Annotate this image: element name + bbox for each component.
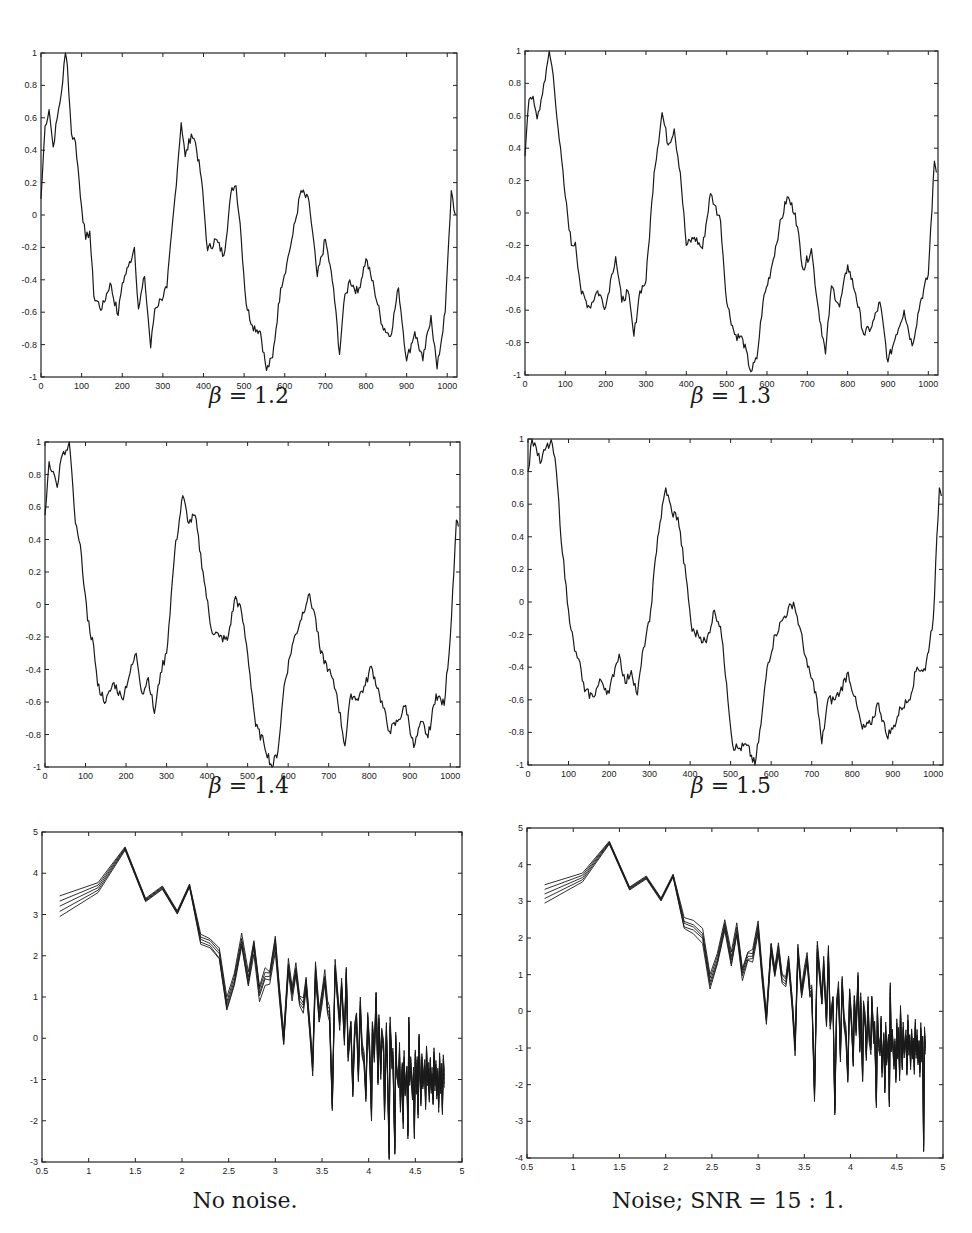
y-tick-label: -1 <box>33 762 41 772</box>
y-tick-label: 3 <box>33 910 38 920</box>
signal-line <box>525 51 936 372</box>
x-tick-label: 1000 <box>918 379 938 389</box>
caption-symbol: β <box>209 773 222 798</box>
y-tick-label: -0.4 <box>508 662 524 672</box>
signal-line <box>528 439 941 765</box>
y-tick-label: 5 <box>33 827 38 837</box>
caption-text: Noise; SNR = 15 : 1. <box>612 1188 844 1213</box>
y-tick-label: 0.8 <box>511 467 524 477</box>
y-tick-label: 0.2 <box>508 176 521 186</box>
y-tick-label: -0.2 <box>25 632 41 642</box>
y-tick-label: 0.8 <box>508 78 521 88</box>
caption-beta-1-5: β = 1.5 <box>581 773 881 798</box>
y-tick-label: 4 <box>33 868 38 878</box>
chart-svg: 0.511.522.533.544.55-3-2-1012345 <box>2 822 482 1192</box>
x-tick-label: 100 <box>78 771 93 781</box>
y-tick-label: 0.8 <box>28 470 41 480</box>
y-tick-label: -1 <box>516 760 524 770</box>
x-tick-label: 3 <box>273 1166 278 1176</box>
x-tick-label: 900 <box>885 769 900 779</box>
x-tick-label: 0 <box>42 771 47 781</box>
y-tick-label: -0.4 <box>505 273 521 283</box>
y-tick-label: 1 <box>32 48 37 58</box>
x-tick-label: 4.5 <box>891 1162 904 1172</box>
x-tick-label: 1000 <box>437 381 457 391</box>
x-tick-label: 100 <box>561 769 576 779</box>
caption-text: = 1.2 <box>222 383 289 408</box>
y-tick-label: -1 <box>30 1075 38 1085</box>
y-tick-label: 0 <box>36 600 41 610</box>
spectrum-line <box>60 849 445 1158</box>
y-tick-label: -0.8 <box>25 730 41 740</box>
spectrum-line <box>60 849 445 1154</box>
y-tick-label: 0 <box>518 1006 523 1016</box>
caption-symbol: β <box>691 383 704 408</box>
x-tick-label: 4 <box>848 1162 853 1172</box>
y-tick-label: -1 <box>513 370 521 380</box>
caption-text: = 1.4 <box>222 773 289 798</box>
x-tick-label: 1 <box>571 1162 576 1172</box>
x-tick-label: 1.5 <box>129 1166 142 1176</box>
y-tick-label: -4 <box>515 1153 523 1163</box>
caption-symbol: β <box>691 773 704 798</box>
y-tick-label: 0.4 <box>511 532 524 542</box>
y-tick-label: 0.4 <box>28 535 41 545</box>
x-tick-label: 900 <box>880 379 895 389</box>
y-tick-label: 0.6 <box>24 113 37 123</box>
caption-text: No noise. <box>192 1188 297 1213</box>
y-tick-label: -0.2 <box>21 242 37 252</box>
x-tick-label: 0.5 <box>36 1166 49 1176</box>
y-tick-label: -0.8 <box>508 727 524 737</box>
y-tick-label: -2 <box>515 1080 523 1090</box>
caption-text: = 1.5 <box>704 773 771 798</box>
x-tick-label: 4.5 <box>409 1166 422 1176</box>
x-tick-label: 5 <box>459 1166 464 1176</box>
spectrum-line <box>545 842 926 1145</box>
y-tick-label: 1 <box>36 437 41 447</box>
x-tick-label: 2 <box>663 1162 668 1172</box>
x-tick-label: 4 <box>366 1166 371 1176</box>
y-tick-label: 0.4 <box>24 145 37 155</box>
chart-svg: 01002003004005006007008009001000-1-0.8-0… <box>1 43 477 407</box>
x-tick-label: 2 <box>179 1166 184 1176</box>
x-tick-label: 1.5 <box>613 1162 626 1172</box>
x-tick-label: 100 <box>74 381 89 391</box>
caption-noise-snr: Noise; SNR = 15 : 1. <box>578 1188 878 1213</box>
plot-frame <box>525 51 938 375</box>
x-tick-label: 0 <box>522 379 527 389</box>
y-tick-label: 0.2 <box>24 178 37 188</box>
x-tick-label: 1000 <box>440 771 460 781</box>
x-tick-label: 900 <box>399 381 414 391</box>
y-tick-label: 0.6 <box>508 111 521 121</box>
y-tick-label: 1 <box>519 434 524 444</box>
y-tick-label: -0.2 <box>508 630 524 640</box>
x-tick-label: 0 <box>525 769 530 779</box>
y-tick-label: 0 <box>33 1033 38 1043</box>
y-tick-label: -0.6 <box>508 695 524 705</box>
y-tick-label: 2 <box>33 951 38 961</box>
y-tick-label: 5 <box>518 823 523 833</box>
y-tick-label: -0.2 <box>505 240 521 250</box>
y-tick-label: 0.8 <box>24 80 37 90</box>
y-tick-label: 4 <box>518 860 523 870</box>
x-tick-label: 3.5 <box>798 1162 811 1172</box>
plot-frame <box>527 828 943 1158</box>
y-tick-label: -3 <box>515 1116 523 1126</box>
x-tick-label: 100 <box>558 379 573 389</box>
y-tick-label: -0.8 <box>21 340 37 350</box>
y-tick-label: 3 <box>518 896 523 906</box>
x-tick-label: 900 <box>402 771 417 781</box>
spectrum-line <box>60 850 445 1159</box>
x-tick-label: 2.5 <box>222 1166 235 1176</box>
spectrum-line <box>545 843 926 1147</box>
x-tick-label: 5 <box>940 1162 945 1172</box>
y-tick-label: 1 <box>518 970 523 980</box>
y-tick-label: -0.6 <box>21 307 37 317</box>
y-tick-label: -1 <box>29 372 37 382</box>
x-tick-label: 2.5 <box>706 1162 719 1172</box>
y-tick-label: 2 <box>518 933 523 943</box>
y-tick-label: 0.2 <box>511 564 524 574</box>
x-tick-label: 1000 <box>923 769 943 779</box>
y-tick-label: -0.4 <box>21 275 37 285</box>
y-tick-label: 1 <box>516 46 521 56</box>
